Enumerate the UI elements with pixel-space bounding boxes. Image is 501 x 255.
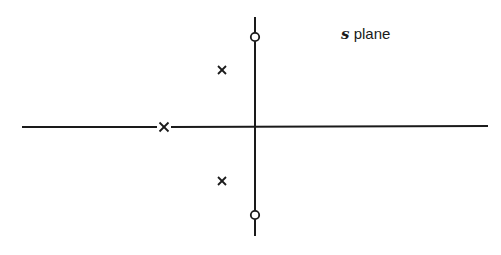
pole-lower-icon: [218, 177, 226, 185]
s-plane-diagram: [0, 0, 501, 255]
s-plane-label: s plane: [341, 25, 390, 43]
zero-lower-icon: [251, 211, 259, 219]
pole-upper-icon: [218, 66, 226, 74]
s-variable: s: [341, 25, 349, 43]
pole-real-icon: [160, 123, 169, 132]
zero-upper-icon: [251, 33, 259, 41]
plane-text: plane: [354, 25, 391, 42]
